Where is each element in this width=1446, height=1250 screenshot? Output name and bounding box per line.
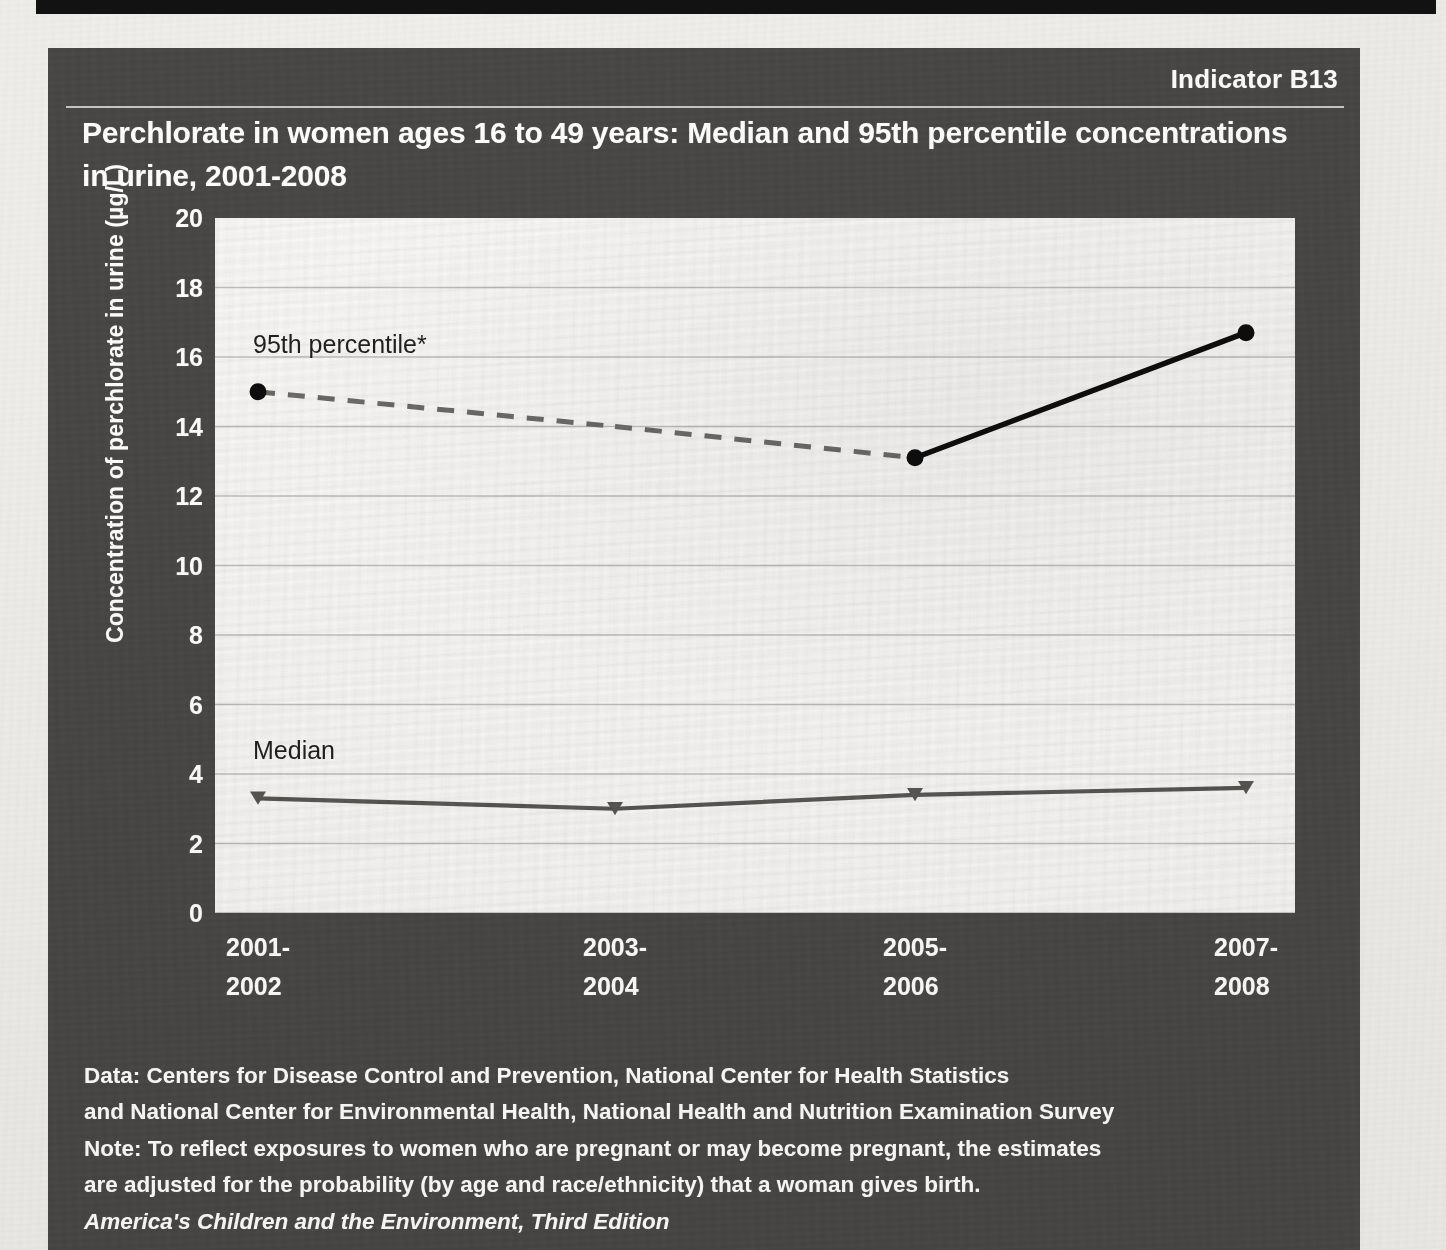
series-95th-segment-0-dashed [258,392,615,427]
indicator-panel: Indicator B13 Perchlorate in women ages … [48,48,1360,1250]
series-median-line [258,788,1246,809]
plot-area [215,218,1295,913]
series-95th-segment-2-solid [915,333,1246,458]
footnote-line-4: are adjusted for the probability (by age… [84,1167,1334,1203]
footnote-line-1: Data: Centers for Disease Control and Pr… [84,1058,1334,1094]
scanned-page: Indicator B13 Perchlorate in women ages … [0,0,1446,1250]
footnote-block: Data: Centers for Disease Control and Pr… [84,1058,1334,1240]
series-95th-marker-0 [250,383,267,400]
page-top-black-strip [36,0,1436,14]
footnote-source: America's Children and the Environment, … [84,1204,1334,1240]
footnote-line-2: and National Center for Environmental He… [84,1094,1334,1130]
y-tick-12: 12 [175,482,203,511]
series-95th-segment-1-dashed [615,427,915,458]
series-95th-marker-3 [1238,324,1255,341]
y-tick-18: 18 [175,273,203,302]
y-tick-6: 6 [189,690,203,719]
x-axis-tick-labels: 2001-20022003-20042005-20062007-2008 [215,928,1295,1038]
y-tick-16: 16 [175,343,203,372]
x-tick-2005-2006: 2005-2006 [883,928,947,1006]
footnote-line-3: Note: To reflect exposures to women who … [84,1131,1334,1167]
y-tick-2: 2 [189,829,203,858]
x-tick-2001-2002: 2001-2002 [226,928,290,1006]
series-95th-marker-2 [907,449,924,466]
y-tick-0: 0 [189,899,203,928]
y-tick-10: 10 [175,551,203,580]
y-tick-4: 4 [189,760,203,789]
y-axis-title: Concentration of perchlorate in urine (µ… [102,94,129,714]
series-label-95th-percentile: 95th percentile* [253,330,427,359]
series-label-median: Median [253,736,335,765]
y-tick-20: 20 [175,204,203,233]
y-axis-tick-labels: 02468101214161820 [143,218,203,913]
y-tick-14: 14 [175,412,203,441]
plot-svg [215,218,1295,913]
x-tick-2003-2004: 2003-2004 [583,928,647,1006]
y-tick-8: 8 [189,621,203,650]
x-tick-2007-2008: 2007-2008 [1214,928,1278,1006]
